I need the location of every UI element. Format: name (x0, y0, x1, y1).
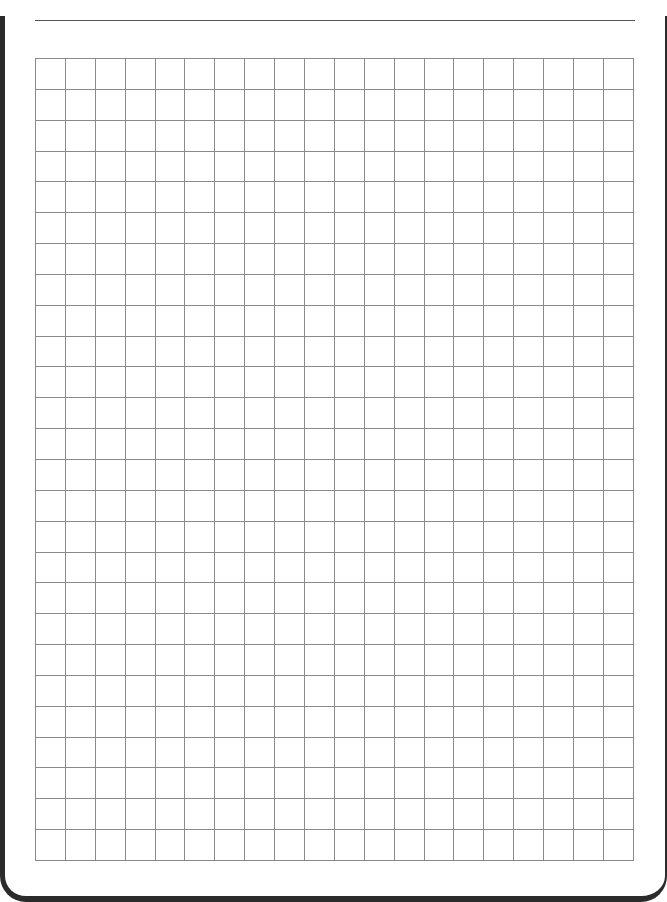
grid-cell (214, 490, 244, 521)
grid-cell (513, 181, 543, 212)
grid-cell (125, 521, 155, 552)
grid-cell (214, 829, 244, 860)
grid-cell (244, 366, 274, 397)
grid-cell (304, 151, 334, 182)
grid-cell (394, 120, 424, 151)
grid-cell (483, 274, 513, 305)
grid-cell (603, 397, 633, 428)
grid-cell (304, 459, 334, 490)
grid-cell (184, 675, 214, 706)
grid-cell (155, 798, 185, 829)
grid-cell (125, 459, 155, 490)
grid-cell (125, 552, 155, 583)
grid-cell (65, 181, 95, 212)
grid-cell (214, 644, 244, 675)
grid-cell (573, 798, 603, 829)
grid-cell (603, 274, 633, 305)
grid-cell (244, 243, 274, 274)
grid-cell (304, 706, 334, 737)
grid-cell (453, 737, 483, 768)
grid-cell (304, 305, 334, 336)
grid-cell (543, 305, 573, 336)
grid-cell (274, 305, 304, 336)
grid-cell (424, 706, 454, 737)
grid-cell (424, 336, 454, 367)
grid-cell (334, 366, 364, 397)
grid-cell (483, 706, 513, 737)
grid-cell (424, 459, 454, 490)
grid-cell (65, 243, 95, 274)
grid-cell (543, 521, 573, 552)
grid-cell (304, 644, 334, 675)
grid-cell (334, 181, 364, 212)
grid-cell (394, 521, 424, 552)
grid-cell (65, 613, 95, 644)
grid-cell (125, 181, 155, 212)
grid-cell (513, 613, 543, 644)
grid-cell (483, 397, 513, 428)
grid-cell (214, 181, 244, 212)
grid-cell (125, 767, 155, 798)
grid-cell (543, 737, 573, 768)
grid-cell (304, 243, 334, 274)
grid-cell (543, 644, 573, 675)
grid-cell (603, 613, 633, 644)
grid-cell (334, 644, 364, 675)
grid-cell (184, 397, 214, 428)
grid-cell (95, 521, 125, 552)
grid-cell (364, 582, 394, 613)
grid-cell (394, 366, 424, 397)
grid-cell (513, 305, 543, 336)
grid-cell (65, 798, 95, 829)
grid-cell (603, 829, 633, 860)
grid-cell (603, 243, 633, 274)
grid-cell (184, 459, 214, 490)
grid-cell (603, 212, 633, 243)
grid-cell (65, 675, 95, 706)
grid-cell (603, 675, 633, 706)
grid-cell (184, 798, 214, 829)
grid-cell (453, 243, 483, 274)
grid-cell (424, 767, 454, 798)
grid-cell (95, 366, 125, 397)
grid-cell (334, 274, 364, 305)
grid-cell (364, 336, 394, 367)
grid-cell (244, 644, 274, 675)
grid-cell (155, 120, 185, 151)
grid-cell (214, 89, 244, 120)
grid-cell (424, 274, 454, 305)
grid-cell (125, 120, 155, 151)
grid-cell (334, 428, 364, 459)
grid-cell (304, 336, 334, 367)
grid-cell (453, 644, 483, 675)
grid-cell (95, 89, 125, 120)
grid-cell (364, 644, 394, 675)
grid-cell (125, 243, 155, 274)
grid-cell (65, 521, 95, 552)
grid-cell (573, 767, 603, 798)
grid-cell (35, 397, 65, 428)
grid-cell (394, 336, 424, 367)
grid-cell (304, 274, 334, 305)
grid-cell (483, 644, 513, 675)
grid-cell (603, 582, 633, 613)
grid-cell (65, 366, 95, 397)
grid-cell (155, 305, 185, 336)
grid-cell (184, 644, 214, 675)
grid-cell (394, 274, 424, 305)
grid-cell (274, 120, 304, 151)
grid-cell (244, 212, 274, 243)
grid-cell (274, 366, 304, 397)
grid-cell (394, 737, 424, 768)
grid-cell (244, 829, 274, 860)
grid-cell (453, 706, 483, 737)
grid-cell (214, 582, 244, 613)
grid-cell (394, 58, 424, 89)
grid-cell (394, 459, 424, 490)
grid-cell (364, 428, 394, 459)
grid-cell (304, 397, 334, 428)
grid-cell (184, 181, 214, 212)
grid-cell (334, 582, 364, 613)
grid-cell (244, 459, 274, 490)
grid-cell (274, 706, 304, 737)
